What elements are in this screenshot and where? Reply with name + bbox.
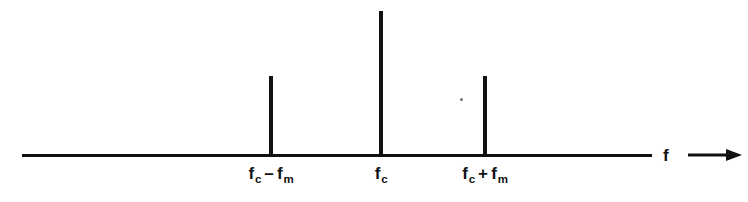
label-subscript-c: c xyxy=(469,173,476,185)
frequency-axis-line xyxy=(22,154,652,157)
spectral-line-upper-sideband xyxy=(483,76,487,155)
paper-speck-artifact xyxy=(460,98,463,101)
label-subscript-c: c xyxy=(381,173,388,185)
axis-tick-label-lower-sideband: fc–fm xyxy=(249,164,294,184)
label-operator-minus: – xyxy=(261,164,277,183)
axis-label-frequency: f xyxy=(663,146,669,166)
label-base-f2: f xyxy=(277,164,283,183)
label-base-f2: f xyxy=(491,164,497,183)
right-arrow-svg xyxy=(688,147,744,163)
spectrum-figure: fc–fm fc fc+fm f xyxy=(0,0,748,202)
label-subscript-m: m xyxy=(498,173,509,185)
spectral-line-lower-sideband xyxy=(269,76,273,155)
axis-tick-label-upper-sideband: fc+fm xyxy=(462,164,507,184)
spectral-line-carrier xyxy=(379,11,383,155)
label-operator-plus: + xyxy=(475,164,491,183)
label-subscript-m: m xyxy=(283,173,294,185)
axis-tick-label-carrier: fc xyxy=(375,164,388,184)
right-arrow-icon xyxy=(688,147,744,163)
label-subscript-c: c xyxy=(255,173,262,185)
